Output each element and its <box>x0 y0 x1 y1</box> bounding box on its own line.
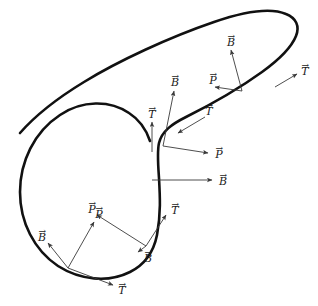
vector-arrow-p-bl-P <box>68 222 94 268</box>
vector-label-p-lm-P: →P <box>88 201 95 215</box>
vector-arrow-p-if-P <box>163 146 208 153</box>
frame-frame-inflection <box>152 91 208 153</box>
vector-label-p-bl-P: →P <box>95 206 102 220</box>
vector-label-b-lm-B: →B <box>144 250 152 264</box>
frame-frame-lower-middle <box>97 215 166 252</box>
vector-accent-icon: → <box>39 227 47 236</box>
vector-accent-icon: → <box>172 72 180 81</box>
vector-label-t-ur-T: →T <box>301 63 308 77</box>
vector-label-p-ur-P: →P <box>209 72 216 86</box>
vector-label-t-lm-T: →T <box>171 202 178 216</box>
vector-arrow-b-if-B <box>163 91 174 146</box>
space-curve-group <box>20 11 298 279</box>
vector-accent-icon: → <box>172 200 180 209</box>
vector-label-b-mv-B: →B <box>219 173 227 187</box>
vector-arrow-b-ur-B <box>231 50 242 91</box>
vector-accent-icon: → <box>89 199 97 208</box>
vector-label-t-bl-T: →T <box>118 282 125 296</box>
vector-label-b-bl-B: →B <box>38 229 46 243</box>
vector-arrow-p-lm-P <box>97 215 146 246</box>
vector-accent-icon: → <box>220 171 228 180</box>
figure-canvas <box>0 0 318 306</box>
vector-accent-icon: → <box>145 248 153 257</box>
vector-accent-icon: → <box>96 204 104 213</box>
vector-accent-icon: → <box>228 32 236 41</box>
vector-accent-icon: → <box>149 104 157 113</box>
frame-frame-upper-right <box>215 50 297 91</box>
vector-label-p-if-P: →P <box>215 146 222 160</box>
space-curve-path <box>20 11 298 279</box>
vector-label-b-if-B: →B <box>171 74 179 88</box>
vector-arrow-t-ur-T <box>275 74 297 87</box>
frenet-frame-figure: →B→P→T→B→P→T→B→T→B→P→T→B→P→T <box>0 0 318 306</box>
vector-arrow-t-bl-T <box>68 268 113 285</box>
vector-accent-icon: → <box>119 280 127 289</box>
vector-accent-icon: → <box>206 101 214 110</box>
vector-label-b-ur-B: →B <box>227 34 235 48</box>
vector-accent-icon: → <box>302 61 310 70</box>
vector-label-t-if-T: →T <box>148 106 155 120</box>
vector-accent-icon: → <box>216 144 224 153</box>
vector-arrow-b-bl-B <box>48 243 68 268</box>
vector-accent-icon: → <box>210 70 218 79</box>
vector-label-t-if-T2: →T <box>205 103 212 117</box>
